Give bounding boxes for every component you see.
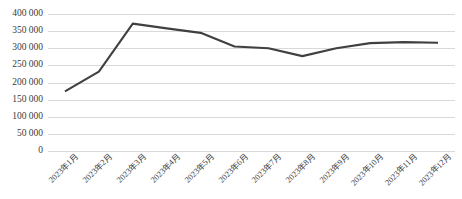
y-axis-tick-label: 100 000: [12, 112, 43, 122]
y-axis-tick-label: 400 000: [12, 9, 43, 19]
y-axis-tick-label: 50 000: [17, 129, 43, 139]
y-axis-tick-label: 150 000: [12, 95, 43, 105]
line-chart-figure: 050 000100 000150 000200 000250 000300 0…: [0, 0, 462, 199]
series-line: [48, 14, 455, 151]
plot-area: [48, 14, 455, 151]
y-axis-tick-label: 200 000: [12, 78, 43, 88]
y-axis-tick-label: 350 000: [12, 26, 43, 36]
y-axis: 050 000100 000150 000200 000250 000300 0…: [0, 0, 46, 199]
y-axis-tick-label: 0: [38, 146, 43, 156]
caption-strip: [0, 193, 462, 199]
x-axis: 2023年1月2023年2月2023年3月2023年4月2023年5月2023年…: [48, 151, 455, 199]
series-polyline: [65, 24, 438, 92]
y-axis-tick-label: 250 000: [12, 61, 43, 71]
y-axis-tick-label: 300 000: [12, 44, 43, 54]
